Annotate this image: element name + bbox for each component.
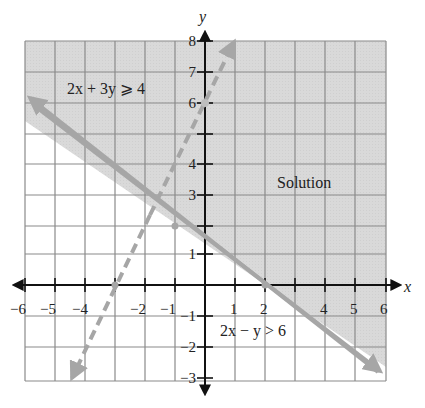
svg-text:7: 7 [189, 64, 197, 80]
svg-text:−2: −2 [130, 301, 146, 317]
svg-text:−5: −5 [40, 301, 56, 317]
x-axis-label: x [403, 278, 411, 295]
svg-text:−1: −1 [180, 308, 196, 324]
svg-text:4: 4 [189, 156, 197, 172]
svg-text:8: 8 [189, 33, 197, 49]
dashed-boundary-arrow [72, 215, 150, 378]
svg-text:1: 1 [230, 301, 238, 317]
svg-text:6: 6 [189, 95, 197, 111]
svg-text:−2: −2 [180, 339, 196, 355]
svg-text:−1: −1 [160, 301, 176, 317]
svg-text:5: 5 [350, 301, 358, 317]
svg-text:−4: −4 [72, 301, 88, 317]
point-0-6 [201, 99, 209, 107]
svg-text:1: 1 [189, 246, 197, 262]
inequality-graph: y x −6 −5 −4 −2 −1 1 2 4 5 6 8 7 6 4 3 1… [0, 0, 425, 408]
solution-label: Solution [277, 174, 331, 191]
svg-text:6: 6 [380, 301, 388, 317]
svg-text:4: 4 [320, 301, 328, 317]
svg-text:−6: −6 [10, 301, 26, 317]
inequality-1-label: 2x + 3y ⩾ 4 [67, 80, 145, 98]
svg-text:−3: −3 [180, 370, 196, 386]
point-neg3-0 [112, 282, 119, 289]
point-neg1-2 [172, 223, 179, 230]
svg-text:2: 2 [260, 301, 268, 317]
svg-text:3: 3 [189, 187, 197, 203]
point-2-0 [262, 282, 269, 289]
inequality-2-label: 2x − y > 6 [220, 322, 286, 340]
y-axis-label: y [197, 8, 207, 26]
